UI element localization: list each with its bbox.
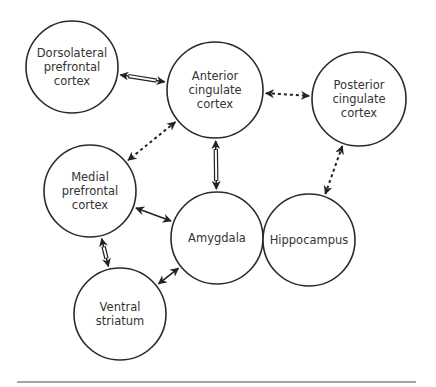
nodes-layer: DorsolateralprefrontalcortexAnteriorcing… bbox=[26, 21, 406, 360]
node-label: Posterior bbox=[334, 78, 385, 92]
node-vstriatum: Ventralstriatum bbox=[74, 268, 166, 360]
node-label: cortex bbox=[197, 97, 233, 111]
node-label: striatum bbox=[96, 314, 144, 328]
node-amygdala: Amygdala bbox=[171, 192, 263, 284]
node-label: cortex bbox=[341, 106, 377, 120]
node-label: cortex bbox=[54, 74, 90, 88]
node-mpfc: Medialprefrontalcortex bbox=[44, 145, 136, 237]
edge-dlpfc-acc bbox=[120, 74, 164, 82]
node-pcc: Posteriorcingulatecortex bbox=[312, 52, 406, 146]
node-label: Medial bbox=[71, 170, 109, 184]
node-acc: Anteriorcingulatecortex bbox=[167, 42, 263, 138]
node-label: Dorsolateral bbox=[37, 46, 107, 60]
node-label: Amygdala bbox=[188, 231, 246, 245]
brain-network-diagram: DorsolateralprefrontalcortexAnteriorcing… bbox=[0, 0, 436, 387]
edge-acc-amygdala bbox=[214, 141, 218, 189]
node-label: prefrontal bbox=[62, 184, 118, 198]
node-label: Anterior bbox=[192, 69, 239, 83]
node-label: prefrontal bbox=[44, 60, 100, 74]
edge-acc-pcc bbox=[266, 93, 309, 96]
node-label: cingulate bbox=[188, 83, 241, 97]
node-hippocampus: Hippocampus bbox=[263, 194, 355, 286]
node-label: cortex bbox=[72, 198, 108, 212]
edge-acc-mpfc bbox=[128, 122, 175, 160]
edge-pcc-hippocampus bbox=[325, 146, 342, 194]
node-label: cingulate bbox=[332, 92, 385, 106]
node-label: Hippocampus bbox=[270, 233, 349, 247]
edge-mpfc-vstriatum bbox=[102, 239, 109, 267]
edge-vstriatum-amygdala bbox=[159, 268, 179, 284]
node-label: Ventral bbox=[100, 300, 141, 314]
node-dlpfc: Dorsolateralprefrontalcortex bbox=[26, 21, 118, 113]
edge-mpfc-amygdala bbox=[136, 208, 171, 221]
